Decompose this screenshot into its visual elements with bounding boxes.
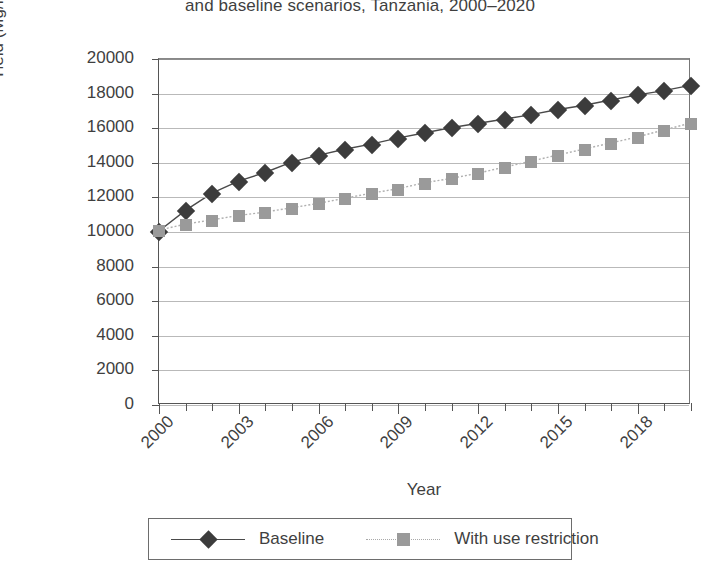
x-tick-label: 2012 bbox=[439, 412, 497, 470]
y-tick-mark bbox=[152, 94, 159, 95]
data-point-marker bbox=[472, 168, 484, 180]
y-tick-label: 4000 bbox=[96, 325, 134, 345]
grid-line bbox=[159, 197, 689, 198]
y-tick-label: 2000 bbox=[96, 359, 134, 379]
data-point-marker bbox=[180, 219, 192, 231]
y-tick-label: 0 bbox=[125, 394, 134, 414]
y-tick-mark bbox=[152, 163, 159, 164]
y-tick-mark bbox=[152, 59, 159, 60]
grid-line bbox=[159, 59, 689, 60]
data-point-marker bbox=[658, 125, 670, 137]
data-point-marker bbox=[339, 193, 351, 205]
x-tick-mark bbox=[638, 403, 639, 414]
legend-swatch-with-use-restriction bbox=[366, 531, 440, 547]
y-tick-mark bbox=[152, 267, 159, 268]
legend-item-baseline[interactable]: Baseline bbox=[171, 529, 324, 549]
data-point-marker bbox=[446, 173, 458, 185]
y-tick-mark bbox=[152, 128, 159, 129]
legend-label-baseline: Baseline bbox=[259, 529, 324, 549]
data-point-marker bbox=[632, 132, 644, 144]
x-tick-mark bbox=[159, 403, 160, 414]
grid-line bbox=[159, 232, 689, 233]
data-point-marker bbox=[392, 184, 404, 196]
x-tick-label: 2015 bbox=[519, 412, 577, 470]
x-tick-mark bbox=[558, 403, 559, 414]
data-point-marker bbox=[206, 215, 218, 227]
x-tick-mark bbox=[531, 403, 532, 411]
y-tick-label: 18000 bbox=[87, 83, 134, 103]
y-axis-labels: 0200040006000800010000120001400016000180… bbox=[0, 0, 148, 579]
x-tick-mark bbox=[239, 403, 240, 414]
x-tick-mark bbox=[425, 403, 426, 411]
y-tick-mark bbox=[152, 405, 159, 406]
x-tick-mark bbox=[691, 403, 692, 411]
data-point-marker bbox=[552, 150, 564, 162]
data-point-marker bbox=[525, 156, 537, 168]
data-point-marker bbox=[259, 207, 271, 219]
grid-line bbox=[159, 336, 689, 337]
y-tick-label: 16000 bbox=[87, 117, 134, 137]
data-point-marker bbox=[605, 138, 617, 150]
x-tick-mark bbox=[478, 403, 479, 414]
x-tick-mark bbox=[319, 403, 320, 414]
chart-figure: and baseline scenarios, Tanzania, 2000–2… bbox=[0, 0, 720, 579]
diamond-marker-icon bbox=[199, 530, 217, 548]
y-tick-mark bbox=[152, 197, 159, 198]
data-point-marker bbox=[366, 188, 378, 200]
x-tick-mark bbox=[398, 403, 399, 414]
y-tick-mark bbox=[152, 370, 159, 371]
y-tick-label: 12000 bbox=[87, 186, 134, 206]
x-tick-label: 2006 bbox=[280, 412, 338, 470]
data-point-marker bbox=[286, 203, 298, 215]
x-tick-mark bbox=[452, 403, 453, 411]
grid-line bbox=[159, 370, 689, 371]
legend-label-with-use-restriction: With use restriction bbox=[454, 529, 599, 549]
data-point-marker bbox=[233, 210, 245, 222]
x-tick-mark bbox=[292, 403, 293, 411]
series-lines bbox=[159, 59, 689, 403]
data-point-marker bbox=[499, 162, 511, 174]
y-tick-label: 8000 bbox=[96, 256, 134, 276]
x-tick-label: 2009 bbox=[360, 412, 418, 470]
data-point-marker bbox=[153, 225, 165, 237]
y-tick-mark bbox=[152, 301, 159, 302]
legend-swatch-baseline bbox=[171, 531, 245, 547]
x-tick-mark bbox=[345, 403, 346, 411]
x-tick-mark bbox=[611, 403, 612, 411]
x-tick-mark bbox=[585, 403, 586, 411]
square-marker-icon bbox=[397, 533, 410, 546]
y-tick-label: 20000 bbox=[87, 48, 134, 68]
x-axis-title: Year bbox=[158, 480, 690, 500]
x-tick-label: 2018 bbox=[599, 412, 657, 470]
grid-line bbox=[159, 301, 689, 302]
legend-item-with-use-restriction[interactable]: With use restriction bbox=[366, 529, 599, 549]
data-point-marker bbox=[685, 118, 697, 130]
y-tick-label: 6000 bbox=[96, 290, 134, 310]
chart-legend: Baseline With use restriction bbox=[148, 518, 572, 560]
y-tick-label: 14000 bbox=[87, 152, 134, 172]
data-point-marker bbox=[579, 144, 591, 156]
x-tick-label: 2003 bbox=[200, 412, 258, 470]
data-point-marker bbox=[313, 198, 325, 210]
grid-line bbox=[159, 267, 689, 268]
x-tick-mark bbox=[664, 403, 665, 411]
y-tick-mark bbox=[152, 336, 159, 337]
x-tick-mark bbox=[372, 403, 373, 411]
grid-line bbox=[159, 163, 689, 164]
y-tick-label: 10000 bbox=[87, 221, 134, 241]
x-tick-mark bbox=[212, 403, 213, 411]
x-tick-mark bbox=[186, 403, 187, 411]
x-tick-mark bbox=[265, 403, 266, 411]
data-point-marker bbox=[419, 178, 431, 190]
plot-area bbox=[158, 58, 690, 404]
x-tick-mark bbox=[505, 403, 506, 411]
